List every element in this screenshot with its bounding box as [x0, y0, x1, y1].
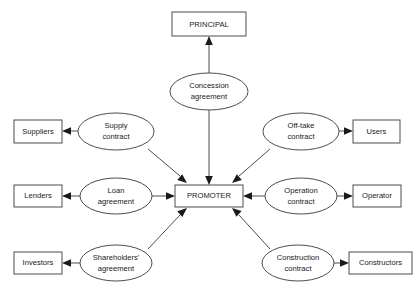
contract-operation-label-line2: contract: [287, 197, 315, 206]
edge-loan-lenders-arrowhead: [62, 192, 71, 200]
contract-offtake-label-line2: contract: [287, 132, 315, 141]
node-suppliers-label: Suppliers: [22, 127, 54, 136]
edge-supply-promoter-arrowhead: [177, 174, 187, 183]
contract-construction-label-line1: Construction: [277, 253, 320, 262]
node-operator-label: Operator: [362, 191, 392, 200]
edge-shareholders-promoter: [148, 215, 180, 249]
contract-loan[interactable]: Loan agreement: [80, 178, 152, 214]
edge-concession-principal-arrowhead: [205, 36, 213, 45]
node-suppliers[interactable]: Suppliers: [14, 120, 62, 143]
edge-shareholders-promoter-arrowhead: [177, 208, 187, 217]
edge-operation-promoter-arrowhead: [243, 192, 252, 200]
contract-supply[interactable]: Supply contract: [78, 113, 154, 150]
node-operator[interactable]: Operator: [353, 185, 401, 207]
edge-offtake-promoter: [239, 149, 270, 176]
edge-offtake-promoter-arrowhead: [232, 174, 242, 183]
edge-concession-promoter-arrowhead: [205, 176, 213, 185]
edge-construction-constructors-arrowhead: [340, 259, 349, 267]
contract-construction-label-line2: contract: [284, 264, 312, 273]
node-principal-label: PRINCIPAL: [189, 20, 229, 29]
node-principal[interactable]: PRINCIPAL: [172, 12, 246, 36]
contract-supply-label-line2: contract: [102, 132, 130, 141]
edge-shareholders-investors-arrowhead: [62, 259, 71, 267]
node-promoter-label: PROMOTER: [187, 191, 231, 200]
diagram-canvas: PRINCIPAL Concession agreement Suppliers…: [0, 0, 419, 301]
contract-concession-label-line2: agreement: [191, 92, 228, 101]
node-users[interactable]: Users: [353, 120, 400, 143]
contract-operation-label-line1: Operation: [284, 186, 317, 195]
contract-supply-label-line1: Supply: [104, 121, 127, 130]
edge-operation-operator-arrowhead: [344, 192, 353, 200]
edge-supply-promoter: [148, 149, 180, 176]
edge-supply-suppliers-arrowhead: [62, 127, 71, 135]
connector-layer: [62, 36, 353, 267]
contract-loan-label-line1: Loan: [108, 186, 125, 195]
node-lenders-label: Lenders: [24, 191, 52, 200]
contract-construction[interactable]: Construction contract: [262, 245, 334, 281]
node-lenders[interactable]: Lenders: [14, 185, 62, 207]
edge-loan-promoter-arrowhead: [166, 192, 175, 200]
contract-shareholders-label-line1: Shareholders': [93, 253, 140, 262]
node-constructors[interactable]: Constructors: [349, 252, 412, 274]
edge-construction-promoter-arrowhead: [232, 208, 242, 217]
contract-concession[interactable]: Concession agreement: [170, 73, 248, 110]
contract-operation[interactable]: Operation contract: [265, 178, 337, 214]
node-investors[interactable]: Investors: [14, 252, 62, 274]
node-investors-label: Investors: [23, 258, 54, 267]
contract-offtake[interactable]: Off-take contract: [263, 113, 339, 150]
contract-shareholders[interactable]: Shareholders' agreement: [80, 245, 152, 281]
contract-loan-label-line2: agreement: [98, 197, 135, 206]
contract-shareholders-label-line2: agreement: [98, 264, 135, 273]
node-users-label: Users: [367, 127, 387, 136]
contract-concession-label-line1: Concession: [189, 81, 229, 90]
edge-offtake-users-arrowhead: [344, 127, 353, 135]
node-constructors-label: Constructors: [359, 258, 402, 267]
contract-offtake-label-line1: Off-take: [288, 121, 315, 130]
node-promoter[interactable]: PROMOTER: [175, 185, 243, 207]
edge-construction-promoter: [239, 215, 270, 249]
